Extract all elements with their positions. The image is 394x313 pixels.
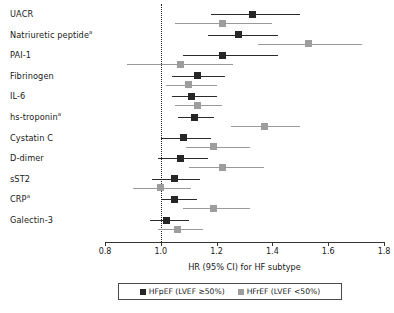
point-estimate-marker [261, 123, 268, 130]
point-estimate-marker [219, 20, 226, 27]
axis-tick-label: 1.6 [322, 247, 335, 256]
x-axis [105, 242, 384, 243]
legend: HFpEF (LVEF ≥50%)HFrEF (LVEF <50%) [118, 283, 342, 300]
point-estimate-marker [194, 102, 201, 109]
legend-swatch-icon [140, 289, 146, 295]
axis-tick [328, 242, 329, 246]
point-estimate-marker [210, 143, 217, 150]
axis-tick-label: 1.2 [210, 247, 223, 256]
point-estimate-marker [180, 134, 187, 141]
confidence-interval-line [161, 199, 197, 200]
legend-swatch-icon [238, 289, 244, 295]
point-estimate-marker [177, 61, 184, 68]
axis-tick [272, 242, 273, 246]
axis-tick-label: 0.8 [99, 247, 112, 256]
point-estimate-marker [171, 196, 178, 203]
point-estimate-marker [249, 11, 256, 18]
legend-label: HFpEF (LVEF ≥50%) [149, 287, 225, 296]
point-estimate-marker [235, 31, 242, 38]
reference-line-icon [161, 4, 162, 242]
legend-item: HFrEF (LVEF <50%) [238, 287, 321, 296]
axis-tick [161, 242, 162, 246]
axis-tick-label: 1.4 [266, 247, 279, 256]
axis-tick-label: 1.0 [154, 247, 167, 256]
point-estimate-marker [219, 164, 226, 171]
confidence-interval-line [208, 35, 278, 36]
point-estimate-marker [210, 205, 217, 212]
confidence-interval-line [183, 55, 278, 56]
forest-plot-figure: UACRNatriuretic peptideaPAI-1FibrinogenI… [0, 0, 394, 313]
point-estimate-marker [191, 114, 198, 121]
axis-tick [217, 242, 218, 246]
point-estimate-marker [194, 72, 201, 79]
point-estimate-marker [171, 175, 178, 182]
point-estimate-marker [163, 217, 170, 224]
point-estimate-marker [305, 40, 312, 47]
axis-tick [384, 242, 385, 246]
point-estimate-marker [177, 155, 184, 162]
plot-area [0, 0, 394, 245]
x-axis-title: HR (95% CI) for HF subtype [105, 262, 384, 272]
legend-label: HFrEF (LVEF <50%) [247, 287, 321, 296]
confidence-interval-line [189, 167, 264, 168]
point-estimate-marker [174, 226, 181, 233]
axis-tick [105, 242, 106, 246]
point-estimate-marker [188, 93, 195, 100]
confidence-interval-line [186, 147, 250, 148]
point-estimate-marker [157, 184, 164, 191]
point-estimate-marker [185, 81, 192, 88]
point-estimate-marker [219, 52, 226, 59]
legend-item: HFpEF (LVEF ≥50%) [140, 287, 225, 296]
axis-tick-label: 1.8 [378, 247, 391, 256]
